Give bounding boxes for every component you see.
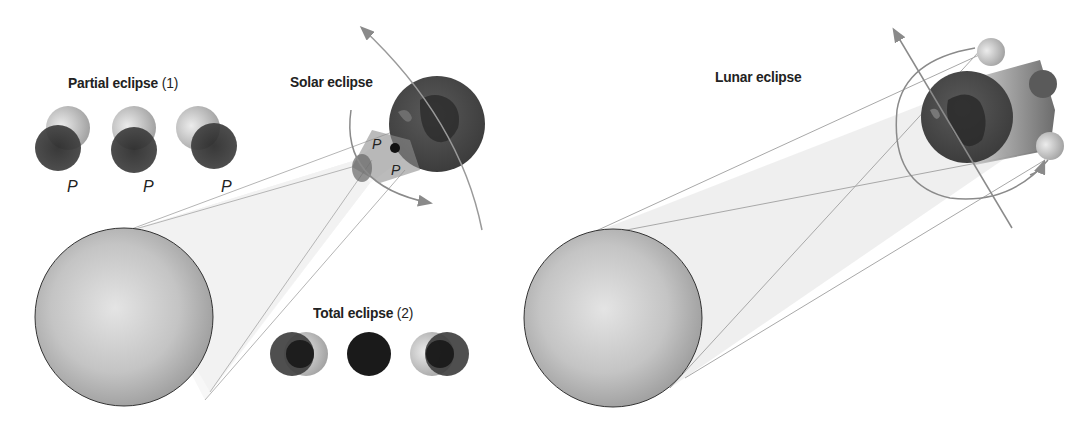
penumbra-marker-2: P [391, 162, 400, 178]
moon-lunar-top [977, 38, 1005, 66]
lunar-eclipse-title: Lunar eclipse [715, 68, 802, 85]
penumbra-marker-1: P [372, 136, 381, 152]
total-eclipse-label: Total eclipse (2) [313, 304, 413, 321]
moon-lunar-mid [1029, 70, 1057, 98]
eclipse-diagram [0, 0, 1086, 438]
lunar-eclipse-group [524, 30, 1064, 407]
partial-marker-1: P [67, 178, 78, 196]
sun-solar [35, 228, 213, 406]
moon-lunar-bottom [1036, 132, 1064, 160]
partial-marker-3: P [221, 178, 232, 196]
partial-marker-2: P [143, 178, 154, 196]
total-eclipse-phases [270, 332, 469, 376]
solar-eclipse-title: Solar eclipse [290, 73, 373, 90]
partial-eclipse-phases [35, 106, 237, 173]
sun-lunar [524, 229, 702, 407]
partial-eclipse-label: Partial eclipse (1) [68, 74, 178, 91]
